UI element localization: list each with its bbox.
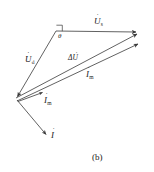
label-u-d: · U d: [25, 55, 34, 64]
label-i-m-lower-subscript: m: [47, 100, 51, 106]
overdot-i-m-upper: ·: [87, 65, 89, 72]
label-i: · I: [51, 131, 54, 140]
label-i-m-upper: · I m: [86, 70, 93, 79]
label-theta: θ: [58, 33, 61, 40]
overdot-i: ·: [52, 126, 54, 133]
vector-i: [17, 100, 46, 135]
phasor-vector-canvas: [0, 0, 154, 172]
vector-u-s: [56, 31, 136, 32]
overdot-u-s: ·: [96, 12, 98, 19]
label-u-s-subscript: s: [101, 21, 103, 27]
vector-i-m-short: [18, 93, 43, 102]
right-angle-marker: [56, 25, 62, 31]
figure-caption: (b): [92, 152, 103, 162]
label-i-m-lower: · I m: [44, 96, 51, 105]
phasor-diagram-figure: · U s · U d · ΔU · I m · I m · I: [0, 0, 154, 172]
label-u-d-subscript: d: [32, 59, 35, 65]
label-delta-u: · ΔU: [68, 54, 78, 62]
overdot-delta-u: ·: [76, 50, 78, 57]
overdot-i-m-lower: ·: [45, 91, 47, 98]
label-i-m-upper-subscript: m: [89, 74, 93, 80]
label-u-s: · U s: [94, 17, 103, 26]
vector-delta-u: [16, 34, 137, 98]
overdot-u-d: ·: [27, 50, 29, 57]
label-theta-symbol: θ: [58, 32, 61, 40]
